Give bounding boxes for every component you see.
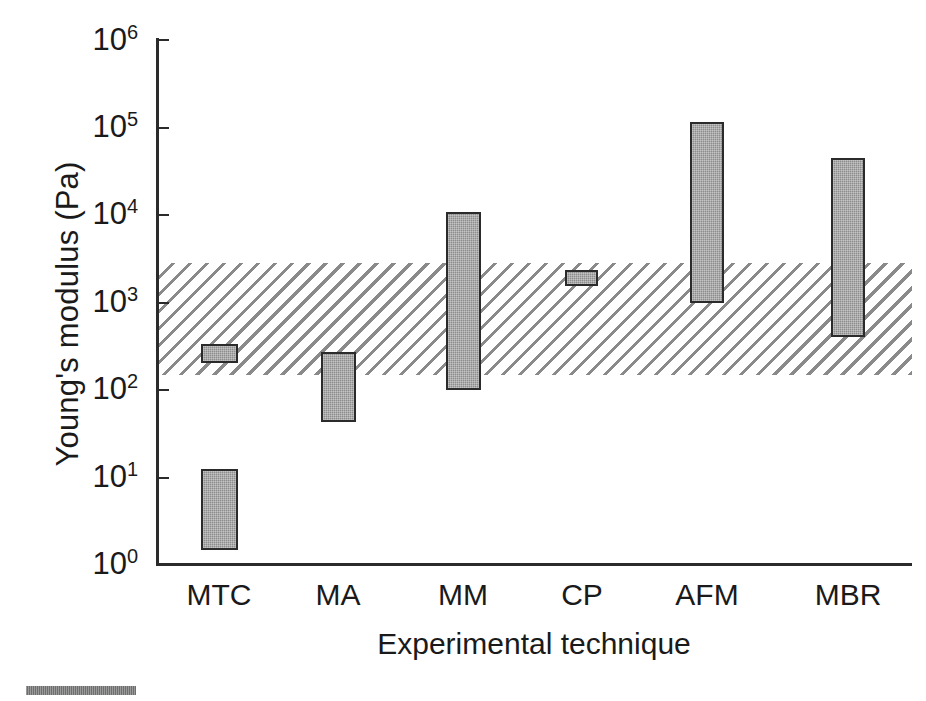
bottom-rule-mark: [26, 686, 136, 695]
range-bar-mtc-secondary: [201, 344, 238, 363]
y-tick-label-10e4: 104: [38, 198, 138, 229]
y-tick-mark-10e1: [156, 477, 169, 479]
y-axis-tick-labels: 106 105 104 103 102 101 100: [38, 0, 138, 701]
x-tick-label-mbr: MBR: [768, 578, 926, 612]
chart-figure: Young's modulus (Pa) 106 105 104 103 102…: [0, 0, 926, 701]
range-bar-afm: [690, 122, 724, 303]
y-tick-mark-10e3: [156, 302, 169, 304]
shaded-reference-band: [157, 263, 912, 375]
range-bar-mbr: [831, 158, 865, 337]
y-tick-mark-10e5: [156, 127, 169, 129]
y-tick-label-10e3: 103: [38, 286, 138, 317]
range-bar-ma: [321, 352, 356, 422]
y-tick-label-10e1: 101: [38, 461, 138, 492]
y-tick-mark-10e4: [156, 214, 169, 216]
range-bar-mm: [446, 212, 481, 390]
y-tick-label-10e2: 102: [38, 373, 138, 404]
y-tick-label-10e6: 106: [38, 24, 138, 55]
x-tick-label-afm: AFM: [627, 578, 787, 612]
x-axis-title: Experimental technique: [156, 627, 912, 661]
y-tick-label-10e5: 105: [38, 111, 138, 142]
range-bar-mtc: [201, 469, 238, 550]
range-bar-cp: [565, 270, 598, 286]
plot-area: [156, 38, 912, 566]
y-tick-label-10e0: 100: [38, 548, 138, 579]
x-axis-line: [156, 563, 912, 566]
y-tick-mark-10e6: [156, 39, 169, 41]
y-tick-mark-10e2: [156, 389, 169, 391]
